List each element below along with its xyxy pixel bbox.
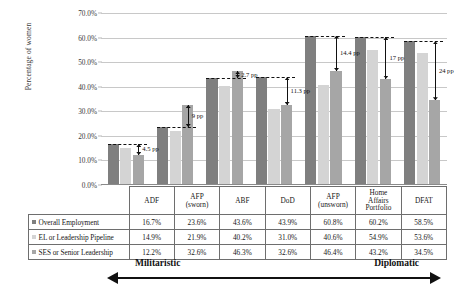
table-cell: 60.8% [310, 215, 355, 230]
table-head: ADFAFP(sworn)ABFDoDAFP(unsworn)HomeAffai… [29, 187, 447, 215]
arrow-left-icon [107, 272, 118, 284]
table-cell: 16.7% [129, 215, 174, 230]
spectrum-labels: Militaristic Diplomatic [107, 258, 441, 272]
table-column-header: AFP(unsworn) [310, 187, 355, 215]
bar [133, 155, 144, 185]
table-column-header-line: DFAT [402, 197, 446, 205]
table-cell: 43.6% [220, 215, 265, 230]
annotation-label: 4.5 pp [142, 145, 158, 152]
annotation-arrow [385, 37, 386, 79]
bar-group [101, 13, 150, 185]
table-row-label-text: Overall Employment [39, 218, 100, 227]
bar-group [299, 13, 348, 185]
y-axis-tick-label: 40.0% [57, 82, 97, 91]
annotation-baseline [108, 144, 147, 145]
annotation-baseline [404, 41, 443, 42]
table-row: EL or Leadership Pipeline14.9%21.9%40.2%… [29, 230, 447, 245]
table-column-header: ADF [129, 187, 174, 215]
table-column-header-line: ADF [130, 197, 174, 205]
bar [206, 78, 217, 185]
bar [268, 109, 279, 185]
bar [256, 77, 267, 185]
y-axis-title: Percentage of women [24, 0, 33, 117]
legend-swatch-icon [32, 220, 36, 224]
table-column-header-line: ABF [220, 197, 264, 205]
legend-swatch-icon [32, 250, 36, 254]
table-cell: 31.0% [265, 230, 310, 245]
bar [232, 71, 243, 185]
bar [330, 71, 341, 185]
table-cell: 21.9% [174, 230, 219, 245]
y-axis-tick-label: 30.0% [57, 107, 97, 116]
annotation-label: 9 pp [192, 112, 204, 119]
table-column-header: ABF [220, 187, 265, 215]
table-header-row: ADFAFP(sworn)ABFDoDAFP(unsworn)HomeAffai… [29, 187, 447, 215]
table-row-label-text: SES or Senior Leadership [39, 248, 113, 257]
bar [170, 131, 181, 185]
table-column-header-line: Portfolio [356, 204, 400, 212]
table-column-header: HomeAffairsPortfolio [356, 187, 401, 215]
spectrum-right-label: Diplomatic [374, 258, 419, 268]
plot-area: 4.5 pp9 pp2.7 pp11.3 pp14.4 pp17 pp24 pp [101, 13, 447, 185]
spectrum-line [117, 277, 431, 279]
table-body: Overall Employment16.7%23.6%43.6%43.9%60… [29, 215, 447, 260]
bar-group [150, 13, 199, 185]
bar [305, 36, 316, 185]
annotation-baseline [157, 127, 196, 128]
bar-group [398, 13, 447, 185]
table-corner-cell [29, 187, 130, 215]
table-cell: 58.5% [401, 215, 446, 230]
bar [367, 50, 378, 185]
table-cell: 40.2% [220, 230, 265, 245]
bar [429, 100, 440, 185]
table-column-header-line: DoD [266, 197, 310, 205]
table-cell: 23.6% [174, 215, 219, 230]
y-axis-tick-label: 10.0% [57, 156, 97, 165]
table-cell: 43.9% [265, 215, 310, 230]
table-row-label-text: EL or Leadership Pipeline [39, 233, 114, 242]
table-cell: 54.9% [356, 230, 401, 245]
bar [281, 105, 292, 185]
annotation-arrow [287, 77, 288, 105]
data-table-wrapper: ADFAFP(sworn)ABFDoDAFP(unsworn)HomeAffai… [28, 186, 447, 260]
table-row-label: Overall Employment [29, 215, 130, 230]
table-column-header: DFAT [401, 187, 446, 215]
table-row: Overall Employment16.7%23.6%43.6%43.9%60… [29, 215, 447, 230]
annotation-label: 17 pp [389, 54, 404, 61]
table-column-header-line: (unsworn) [311, 201, 355, 209]
bar [157, 127, 168, 185]
bar-group [200, 13, 249, 185]
table-cell: 53.6% [401, 230, 446, 245]
table-column-header-line: (sworn) [175, 201, 219, 209]
table-column-header: DoD [265, 187, 310, 215]
annotation-label: 24 pp [439, 67, 454, 74]
arrow-right-icon [430, 272, 441, 284]
y-axis-tick-label: 50.0% [57, 58, 97, 67]
spectrum-left-label: Militaristic [135, 258, 180, 268]
bar [380, 79, 391, 185]
table-cell: 60.2% [356, 215, 401, 230]
bar [120, 148, 131, 185]
bar [219, 86, 230, 185]
bar [417, 53, 428, 185]
bar [404, 41, 415, 185]
y-axis-tick-label: 70.0% [57, 9, 97, 18]
table-cell: 40.6% [310, 230, 355, 245]
annotation-baseline [206, 78, 245, 79]
table-column-header: AFP(sworn) [174, 187, 219, 215]
y-axis-tick-label: 20.0% [57, 131, 97, 140]
annotation-baseline [305, 36, 344, 37]
annotation-arrow [435, 41, 436, 100]
bar-group [348, 13, 397, 185]
table-cell: 14.9% [129, 230, 174, 245]
annotation-arrow [188, 105, 189, 127]
y-axis-tick-label: 60.0% [57, 33, 97, 42]
annotation-label: 11.3 pp [291, 87, 311, 94]
annotation-baseline [355, 37, 394, 38]
x-axis-line [101, 184, 447, 185]
bar [318, 85, 329, 185]
bar [355, 37, 366, 185]
table-row-label: EL or Leadership Pipeline [29, 230, 130, 245]
bar-group [249, 13, 298, 185]
